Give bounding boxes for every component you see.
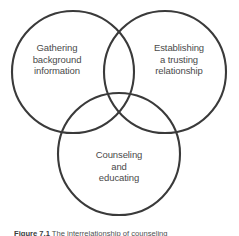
venn-circle-bottom	[58, 93, 180, 215]
figure-caption-number: Figure 7.1	[14, 229, 50, 236]
venn-diagram-figure: Gathering background information Establi…	[0, 0, 239, 236]
figure-caption-text: The interrelationship of counseling	[52, 229, 168, 236]
venn-diagram-circles	[0, 0, 239, 236]
figure-caption: Figure 7.1 The interrelationship of coun…	[14, 229, 229, 236]
